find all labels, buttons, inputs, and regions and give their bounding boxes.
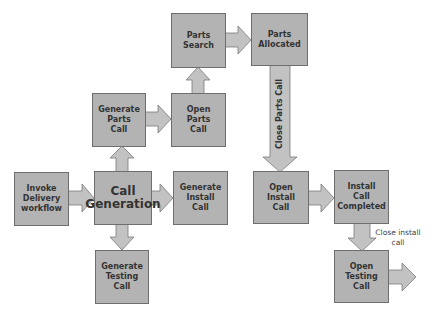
arrow-opentesting-exit bbox=[388, 263, 416, 291]
node-open-install-call: Open Install Call bbox=[253, 171, 309, 224]
node-generate-testing-call: Generate Testing Call bbox=[95, 250, 149, 304]
edge-label-close-install-call: Close install call bbox=[372, 228, 424, 248]
node-open-parts-call: Open Parts Call bbox=[171, 93, 226, 147]
arrow-callgen-to-gentesting bbox=[110, 224, 134, 250]
arrow-callgen-to-genparts bbox=[110, 146, 134, 172]
workflow-diagram: Parts Search Parts Allocated Generate Pa… bbox=[0, 0, 440, 316]
node-generate-parts-call: Generate Parts Call bbox=[92, 93, 146, 147]
arrow-openparts-to-partssearch bbox=[186, 67, 210, 94]
edge-label-close-parts-call: Close Parts Call bbox=[274, 74, 286, 154]
node-call-generation: Call Generation bbox=[94, 171, 152, 225]
node-generate-install-call: Generate Install Call bbox=[173, 171, 228, 225]
arrow-partssearch-to-partsallocated bbox=[224, 26, 251, 54]
node-open-testing-call: Open Testing Call bbox=[334, 250, 389, 303]
node-parts-search: Parts Search bbox=[171, 13, 226, 68]
arrow-openinstall-to-installcompleted bbox=[308, 184, 334, 212]
node-install-call-completed: Install Call Completed bbox=[334, 170, 389, 224]
node-parts-allocated: Parts Allocated bbox=[251, 13, 308, 66]
node-invoke-delivery-workflow: Invoke Delivery workflow bbox=[14, 172, 69, 226]
arrow-genparts-to-openparts bbox=[144, 105, 171, 133]
